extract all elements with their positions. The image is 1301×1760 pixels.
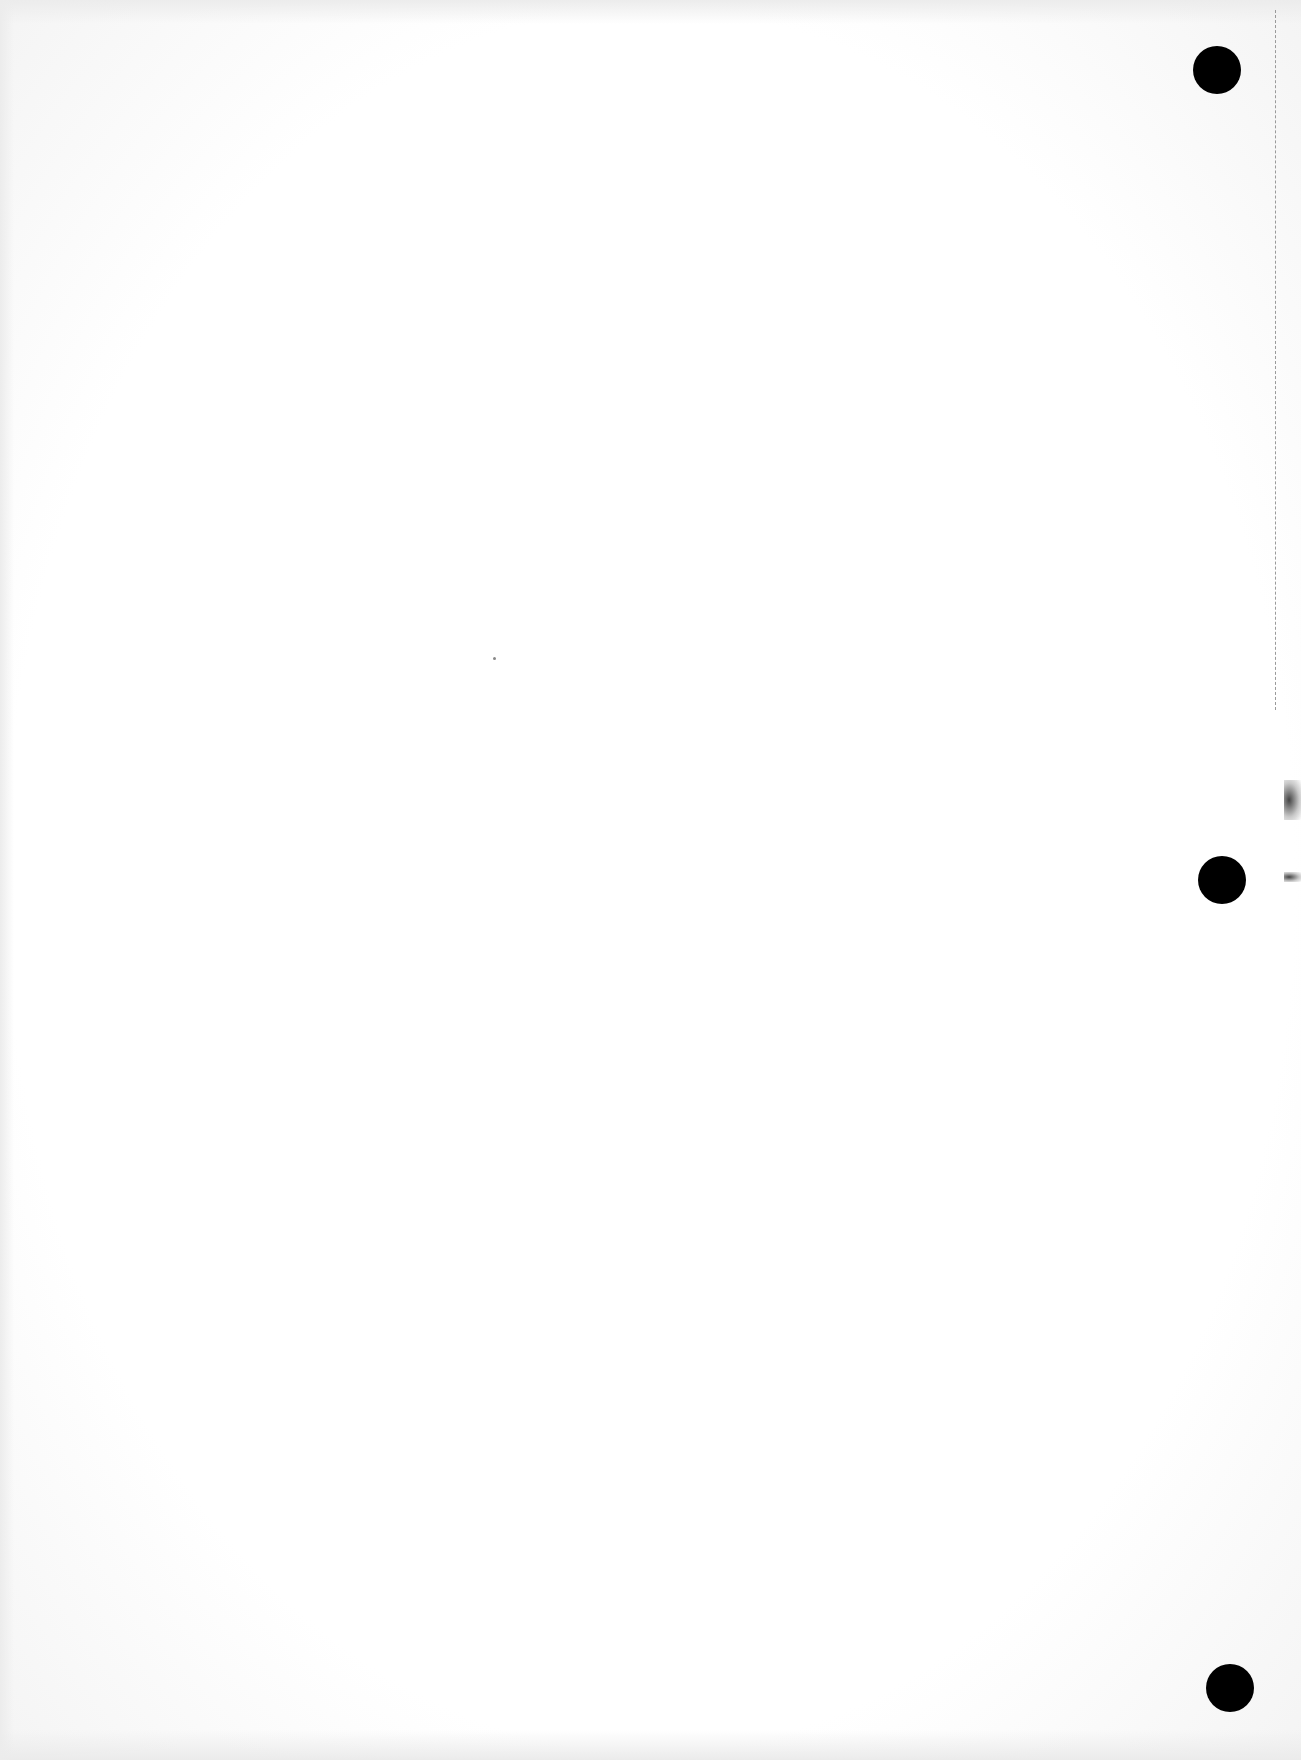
scan-smudge	[1284, 872, 1301, 882]
punch-hole-bottom	[1206, 1664, 1254, 1712]
perforation-edge	[1275, 10, 1276, 710]
scan-speck	[493, 657, 496, 660]
punch-hole-top	[1193, 46, 1241, 94]
punch-hole-middle	[1198, 856, 1246, 904]
scan-smudge	[1284, 780, 1301, 820]
scan-shadow-top	[0, 0, 1301, 24]
scan-shadow-left	[0, 0, 14, 1760]
scan-shadow-bottom	[0, 1730, 1301, 1760]
blank-page	[0, 0, 1301, 1760]
